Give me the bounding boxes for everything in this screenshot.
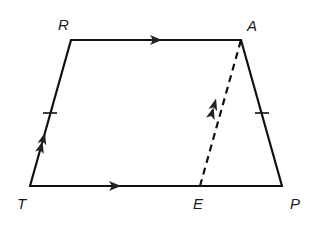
vertex-label-R: R	[58, 16, 69, 33]
vertex-label-T: T	[17, 195, 28, 212]
vertex-label-P: P	[290, 195, 300, 212]
segment-EA-dashed	[200, 40, 241, 186]
double-arrow-icon-TR	[35, 131, 49, 154]
vertex-label-A: A	[246, 17, 257, 34]
trapezoid-diagram: R A T E P	[0, 0, 317, 226]
double-arrow-icon-EA	[206, 97, 220, 120]
vertex-label-E: E	[193, 195, 204, 212]
